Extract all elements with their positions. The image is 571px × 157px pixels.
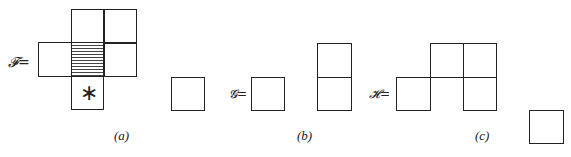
- cell: [430, 43, 464, 78]
- label-H: 𝓗=: [369, 87, 390, 101]
- cell: [317, 43, 352, 78]
- cell: [317, 77, 352, 111]
- hatched-cell: [71, 42, 105, 77]
- single-square: [171, 77, 205, 111]
- caption-b: (b): [297, 128, 312, 144]
- cell: [463, 43, 497, 78]
- single-square: [529, 110, 564, 144]
- label-F: 𝓕=: [8, 54, 30, 71]
- cell: [38, 42, 72, 77]
- asterisk-icon: ∗: [80, 80, 98, 105]
- cell: [103, 42, 137, 77]
- cell: [71, 9, 105, 44]
- cell: [396, 77, 431, 111]
- single-square: [251, 77, 285, 111]
- cell: [103, 9, 137, 44]
- caption-a: (a): [114, 128, 129, 144]
- cell: [463, 77, 497, 111]
- caption-c: (c): [475, 128, 489, 144]
- label-G: 𝓖=: [229, 87, 247, 101]
